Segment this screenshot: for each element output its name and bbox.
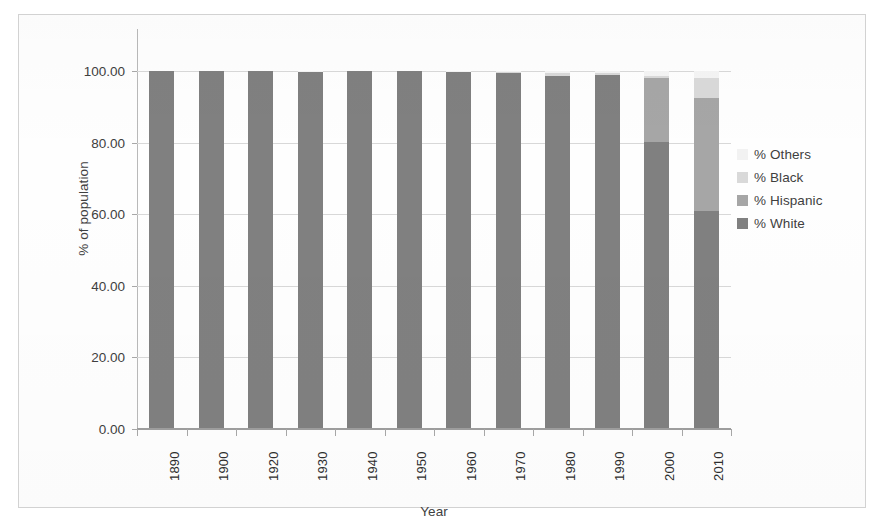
bar-segment[interactable] <box>595 73 620 76</box>
figure-frame: % of population 0.0020.0040.0060.0080.00… <box>18 14 866 508</box>
bar-segment[interactable] <box>694 78 719 98</box>
x-axis-tick <box>335 429 336 436</box>
bar-segment[interactable] <box>496 73 521 429</box>
y-tick-label: 60.00 <box>47 207 125 222</box>
x-axis-tick <box>187 429 188 436</box>
bar-stack <box>446 71 471 429</box>
bar-segment[interactable] <box>644 78 669 142</box>
x-axis-tick <box>583 429 584 436</box>
bar-group[interactable] <box>694 71 719 429</box>
bar-segment[interactable] <box>298 71 323 72</box>
x-axis-tick <box>632 429 633 436</box>
legend-item[interactable]: % Others <box>737 143 857 165</box>
y-tick-label: 40.00 <box>47 278 125 293</box>
legend-swatch-icon <box>737 218 748 229</box>
x-axis-tick <box>236 429 237 436</box>
x-tick-label: 1890 <box>167 451 182 481</box>
bar-segment[interactable] <box>644 76 669 78</box>
chart-legend: % Others% Black% Hispanic% White <box>737 143 857 235</box>
x-axis-tick <box>682 429 683 436</box>
bar-stack <box>694 71 719 429</box>
bar-segment[interactable] <box>545 76 570 429</box>
legend-item[interactable]: % White <box>737 212 857 234</box>
bars-layer <box>137 71 731 429</box>
bar-stack <box>298 71 323 429</box>
y-axis-tick-labels: 0.0020.0040.0060.0080.00100.00 <box>47 15 125 507</box>
x-tick-label: 1920 <box>266 451 281 481</box>
legend-label: % Black <box>754 170 803 185</box>
bar-segment[interactable] <box>446 71 471 72</box>
legend-item[interactable]: % Hispanic <box>737 189 857 211</box>
bar-stack <box>397 71 422 429</box>
y-tick-label: 0.00 <box>47 422 125 437</box>
y-tick-label: 100.00 <box>47 64 125 79</box>
bar-segment[interactable] <box>298 71 323 72</box>
legend-swatch-icon <box>737 149 748 160</box>
bar-segment[interactable] <box>347 71 372 429</box>
bar-segment[interactable] <box>694 211 719 429</box>
bar-stack <box>347 71 372 429</box>
bar-group[interactable] <box>545 71 570 429</box>
bar-stack <box>199 71 224 429</box>
x-axis-tick-labels: 1890190019201930194019501960197019801990… <box>137 439 731 499</box>
x-tick-label: 2000 <box>662 451 677 481</box>
bar-stack <box>545 71 570 429</box>
legend-label: % White <box>754 216 805 231</box>
bar-segment[interactable] <box>694 71 719 78</box>
x-axis-tick <box>137 429 138 436</box>
x-tick-label: 1990 <box>612 451 627 481</box>
plot-area <box>137 71 731 429</box>
y-tick-label: 20.00 <box>47 350 125 365</box>
bar-segment[interactable] <box>694 98 719 211</box>
bar-segment[interactable] <box>446 72 471 429</box>
bar-stack <box>248 71 273 429</box>
bar-group[interactable] <box>397 71 422 429</box>
x-axis-tick <box>484 429 485 436</box>
legend-label: % Hispanic <box>754 193 823 208</box>
bar-segment[interactable] <box>545 71 570 73</box>
bar-stack <box>595 71 620 429</box>
x-tick-label: 1900 <box>216 451 231 481</box>
x-axis-tick <box>286 429 287 436</box>
bar-group[interactable] <box>446 71 471 429</box>
x-tick-label: 1950 <box>414 451 429 481</box>
bar-segment[interactable] <box>595 71 620 73</box>
bar-segment[interactable] <box>496 72 521 73</box>
bar-group[interactable] <box>644 71 669 429</box>
bar-segment[interactable] <box>397 71 422 429</box>
bar-group[interactable] <box>595 71 620 429</box>
legend-label: % Others <box>754 147 811 162</box>
x-tick-label: 1980 <box>563 451 578 481</box>
x-axis-tick <box>385 429 386 436</box>
bar-segment[interactable] <box>644 71 669 76</box>
bar-segment[interactable] <box>248 71 273 429</box>
bar-stack <box>644 71 669 429</box>
bar-group[interactable] <box>347 71 372 429</box>
bar-segment[interactable] <box>149 71 174 429</box>
bar-group[interactable] <box>248 71 273 429</box>
bar-group[interactable] <box>199 71 224 429</box>
bar-segment[interactable] <box>496 71 521 72</box>
bar-segment[interactable] <box>545 73 570 76</box>
bar-segment[interactable] <box>595 75 620 429</box>
x-axis-tick <box>731 429 732 436</box>
x-tick-label: 1940 <box>365 451 380 481</box>
x-axis-ticks <box>137 429 731 437</box>
bar-segment[interactable] <box>446 71 471 72</box>
x-tick-label: 1960 <box>464 451 479 481</box>
x-tick-label: 1970 <box>513 451 528 481</box>
y-tick-label: 80.00 <box>47 135 125 150</box>
bar-segment[interactable] <box>644 142 669 429</box>
legend-swatch-icon <box>737 172 748 183</box>
bar-group[interactable] <box>298 71 323 429</box>
x-axis-tick <box>533 429 534 436</box>
bar-group[interactable] <box>149 71 174 429</box>
x-tick-label: 1930 <box>315 451 330 481</box>
x-axis-title: Year <box>137 504 731 519</box>
x-tick-label: 2010 <box>711 451 726 481</box>
x-axis-tick <box>434 429 435 436</box>
bar-segment[interactable] <box>298 72 323 429</box>
legend-item[interactable]: % Black <box>737 166 857 188</box>
bar-segment[interactable] <box>199 71 224 429</box>
bar-group[interactable] <box>496 71 521 429</box>
